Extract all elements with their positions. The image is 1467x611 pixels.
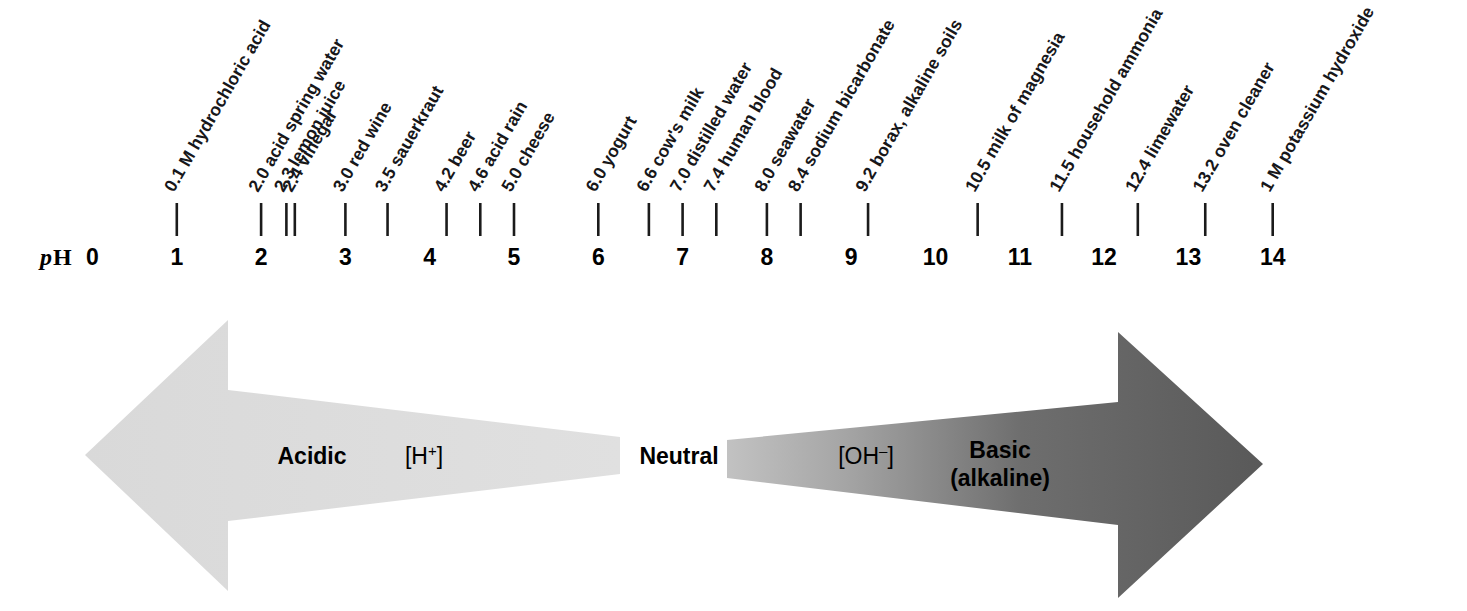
axis-number-10: 10 xyxy=(923,244,949,270)
axis-number-14: 14 xyxy=(1260,244,1286,270)
hydrogen-ion-label: [H+] xyxy=(405,442,443,470)
axis-title-h: H xyxy=(53,244,72,270)
axis-number-12: 12 xyxy=(1091,244,1117,270)
axis-number-11: 11 xyxy=(1008,244,1033,270)
ph-scale-figure: Acidic [H+] Neutral [OH–] Basic (alkalin… xyxy=(0,0,1467,611)
axis-number-9: 9 xyxy=(845,244,858,270)
axis-number-3: 3 xyxy=(339,244,352,270)
axis-number-group: 01234567891011121314 xyxy=(86,244,1286,270)
axis-number-0: 0 xyxy=(86,244,99,270)
ph-scale-diagram: Acidic [H+] Neutral [OH–] Basic (alkalin… xyxy=(0,0,1467,611)
axis-number-13: 13 xyxy=(1176,244,1202,270)
axis-number-7: 7 xyxy=(676,244,689,270)
axis-number-5: 5 xyxy=(508,244,521,270)
axis-number-1: 1 xyxy=(170,244,183,270)
axis-title-p: p xyxy=(38,244,52,270)
axis-number-2: 2 xyxy=(255,244,268,270)
neutral-label: Neutral xyxy=(639,443,718,469)
basic-label-line1: Basic xyxy=(969,437,1031,463)
axis-number-8: 8 xyxy=(761,244,774,270)
acidic-label: Acidic xyxy=(277,443,346,469)
basic-label-line2: (alkaline) xyxy=(950,465,1050,491)
axis-number-4: 4 xyxy=(423,244,436,270)
axis-number-6: 6 xyxy=(592,244,605,270)
